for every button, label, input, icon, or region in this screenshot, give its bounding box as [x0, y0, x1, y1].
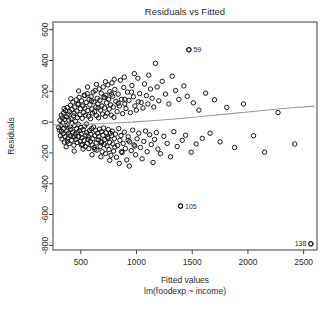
data-point — [117, 161, 121, 165]
data-point — [99, 155, 103, 159]
data-point — [147, 133, 151, 137]
data-point — [137, 131, 141, 135]
data-point — [154, 130, 158, 134]
data-point — [120, 111, 124, 115]
data-point — [127, 164, 131, 168]
y-tick-label: 400 — [40, 53, 50, 67]
data-point — [123, 146, 127, 150]
outlier-point — [187, 48, 191, 52]
data-point — [225, 105, 229, 109]
data-point — [212, 98, 216, 102]
data-point — [149, 142, 153, 146]
data-point — [109, 153, 113, 157]
data-point — [146, 102, 150, 106]
data-point — [165, 141, 169, 145]
data-point — [203, 91, 207, 95]
data-point — [124, 106, 128, 110]
data-point — [136, 76, 140, 80]
data-point — [157, 99, 161, 103]
data-point — [76, 89, 80, 93]
data-point — [262, 150, 266, 154]
x-axis-sublabel: lm(foodexp ~ income) — [144, 286, 226, 296]
x-tick-label: 500 — [74, 257, 88, 267]
data-point — [180, 138, 184, 142]
data-point — [122, 75, 126, 79]
y-tick-label: 200 — [40, 84, 50, 98]
data-point — [251, 133, 255, 137]
outlier-point — [178, 204, 182, 208]
data-point — [113, 87, 117, 91]
data-point — [115, 109, 119, 113]
data-point — [197, 108, 201, 112]
outlier-label: 59 — [193, 46, 201, 53]
data-point — [117, 126, 121, 130]
data-point — [114, 155, 118, 159]
data-point — [131, 95, 135, 99]
data-point — [142, 82, 146, 86]
data-point — [162, 134, 166, 138]
data-point — [189, 150, 193, 154]
x-axis-label: Fitted values — [161, 275, 209, 285]
data-point — [144, 93, 148, 97]
data-point — [72, 149, 76, 153]
data-point — [140, 157, 144, 161]
data-point — [218, 140, 222, 144]
data-point — [94, 82, 98, 86]
data-point — [175, 144, 179, 148]
data-point — [128, 110, 132, 114]
y-tick-label: -200 — [40, 144, 50, 161]
outlier-point — [309, 242, 313, 246]
data-point — [133, 153, 137, 157]
data-point — [293, 142, 297, 146]
data-point — [101, 85, 105, 89]
data-point — [232, 145, 236, 149]
data-point — [107, 147, 111, 151]
data-point — [155, 85, 159, 89]
data-point — [130, 128, 134, 132]
x-tick-label: 1500 — [183, 257, 202, 267]
data-point — [153, 61, 157, 65]
chart-canvas: Residuals vs Fitted591051385001000150020… — [0, 0, 331, 310]
data-point — [160, 79, 164, 83]
data-point — [183, 133, 187, 137]
data-point — [85, 85, 89, 89]
data-point — [194, 142, 198, 146]
x-tick-label: 1000 — [127, 257, 146, 267]
data-point — [118, 78, 122, 82]
data-point — [142, 139, 146, 143]
data-point — [129, 148, 133, 152]
y-tick-label: -600 — [40, 206, 50, 223]
residuals-vs-fitted-plot: Residuals vs Fitted591051385001000150020… — [0, 0, 331, 310]
data-point — [108, 158, 112, 162]
data-point — [130, 83, 134, 87]
data-point — [145, 150, 149, 154]
data-point — [152, 105, 156, 109]
data-point — [103, 80, 107, 84]
data-point — [177, 97, 181, 101]
data-point — [168, 155, 172, 159]
data-point — [143, 129, 147, 133]
data-point — [141, 106, 145, 110]
data-point — [136, 100, 140, 104]
data-point — [122, 85, 126, 89]
data-point — [241, 102, 245, 106]
y-tick-label: -400 — [40, 175, 50, 192]
data-point — [151, 160, 155, 164]
data-point — [112, 137, 116, 141]
data-point — [134, 108, 138, 112]
outlier-label: 138 — [295, 240, 307, 247]
y-axis-label: Residuals — [6, 117, 16, 154]
data-point — [150, 96, 154, 100]
data-point — [116, 92, 120, 96]
data-point — [90, 153, 94, 157]
data-point — [132, 71, 136, 75]
data-point — [125, 158, 129, 162]
data-point — [185, 94, 189, 98]
data-point — [200, 136, 204, 140]
data-point — [276, 110, 280, 114]
data-point — [182, 84, 186, 88]
data-point — [99, 91, 103, 95]
data-point — [113, 132, 117, 136]
x-tick-label: 2000 — [238, 257, 257, 267]
data-point — [173, 88, 177, 92]
